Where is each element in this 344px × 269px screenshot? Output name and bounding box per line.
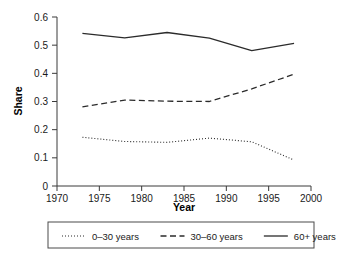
y-axis-title: Share — [12, 86, 24, 115]
x-tick-label: 1975 — [88, 193, 111, 204]
series-line-dashed — [82, 74, 294, 107]
x-tick-label: 1970 — [46, 193, 69, 204]
x-axis-group: 1970197519801985199019952000 Year — [46, 186, 323, 213]
chart-container: 00.10.20.30.40.50.6 Share 19701975198019… — [0, 0, 344, 269]
line-chart: 00.10.20.30.40.50.6 Share 19701975198019… — [0, 0, 344, 269]
legend-label: 0–30 years — [92, 231, 139, 242]
x-tick-label: 2000 — [300, 193, 323, 204]
x-tick-marks — [57, 186, 311, 191]
x-axis-title: Year — [173, 201, 195, 213]
y-tick-label: 0.1 — [34, 152, 48, 163]
legend-box — [48, 222, 314, 248]
data-series-group — [82, 32, 294, 160]
y-axis-group: 00.10.20.30.40.50.6 Share — [12, 12, 57, 192]
legend: 0–30 years30–60 years60+ years — [48, 222, 336, 248]
y-tick-labels: 00.10.20.30.40.50.6 — [34, 12, 48, 192]
x-tick-label: 1980 — [131, 193, 154, 204]
legend-label: 30–60 years — [191, 231, 244, 242]
legend-label: 60+ years — [294, 231, 336, 242]
y-tick-label: 0.6 — [34, 12, 48, 23]
series-line-solid — [82, 32, 294, 50]
legend-items: 0–30 years30–60 years60+ years — [62, 231, 336, 242]
x-tick-label: 1990 — [215, 193, 238, 204]
y-tick-label: 0 — [42, 181, 48, 192]
y-tick-label: 0.5 — [34, 40, 48, 51]
y-tick-label: 0.2 — [34, 124, 48, 135]
x-tick-label: 1995 — [258, 193, 281, 204]
y-tick-label: 0.3 — [34, 96, 48, 107]
y-tick-marks — [52, 17, 57, 186]
series-line-dotted — [82, 137, 294, 160]
y-tick-label: 0.4 — [34, 68, 48, 79]
